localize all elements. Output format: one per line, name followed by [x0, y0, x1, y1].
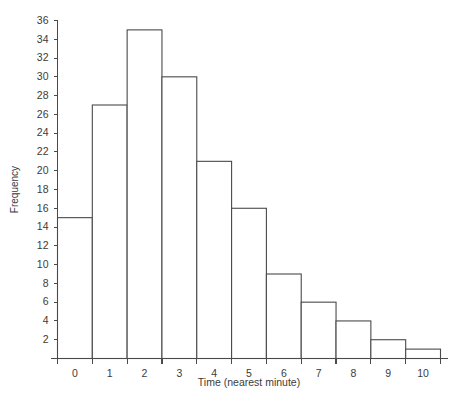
histogram-svg: 24681012141618202224262830323436 0123456…	[0, 0, 472, 405]
y-tick-label: 20	[37, 164, 49, 176]
histogram-chart: 24681012141618202224262830323436 0123456…	[0, 0, 472, 405]
y-tick-label: 16	[37, 202, 49, 214]
y-tick-label: 8	[43, 277, 49, 289]
bars-group	[58, 30, 441, 359]
histogram-bar	[197, 161, 232, 358]
y-tick-label: 36	[37, 14, 49, 26]
x-tick-label: 3	[176, 367, 182, 379]
histogram-bar	[162, 77, 197, 359]
y-axis-title: Frequency	[9, 166, 20, 213]
x-tick-label: 1	[107, 367, 113, 379]
histogram-bar	[92, 105, 127, 359]
histogram-bar	[406, 349, 441, 358]
y-tick-label: 28	[37, 89, 49, 101]
y-tick-label: 32	[37, 51, 49, 63]
histogram-bar	[266, 274, 301, 359]
y-tick-label: 4	[43, 314, 49, 326]
y-tick-label: 22	[37, 145, 49, 157]
histogram-bar	[58, 218, 93, 359]
y-tick-label: 2	[43, 333, 49, 345]
histogram-bar	[127, 30, 162, 359]
x-tick-label: 10	[417, 367, 429, 379]
x-tick-label: 2	[142, 367, 148, 379]
y-tick-label: 34	[37, 33, 49, 45]
y-tick-label: 14	[37, 220, 49, 232]
y-tick-label: 24	[37, 126, 49, 138]
x-tick-label: 0	[72, 367, 78, 379]
histogram-bar	[371, 340, 406, 359]
y-axis-ticks: 24681012141618202224262830323436	[37, 14, 58, 345]
y-tick-label: 18	[37, 183, 49, 195]
y-tick-label: 26	[37, 108, 49, 120]
y-tick-label: 12	[37, 239, 49, 251]
histogram-bar	[301, 302, 336, 358]
x-tick-label: 8	[351, 367, 357, 379]
y-tick-label: 30	[37, 70, 49, 82]
y-tick-label: 10	[37, 258, 49, 270]
x-tick-label: 7	[316, 367, 322, 379]
histogram-bar	[232, 208, 267, 358]
x-axis-title: Time (nearest minute)	[198, 376, 300, 388]
histogram-bar	[336, 321, 371, 359]
x-tick-label: 9	[385, 367, 391, 379]
y-tick-label: 6	[43, 295, 49, 307]
